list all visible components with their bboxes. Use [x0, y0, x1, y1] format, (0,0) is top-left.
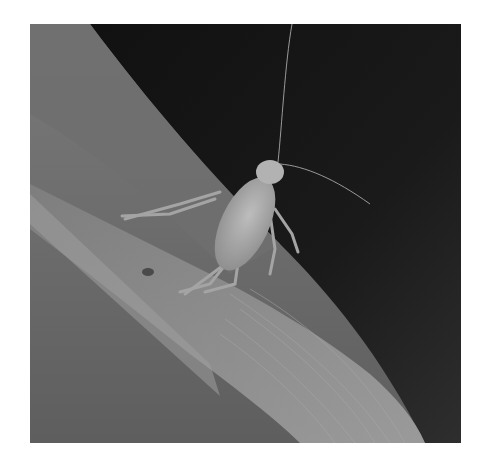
photo-canvas [30, 24, 461, 443]
insect-photo [30, 24, 461, 443]
